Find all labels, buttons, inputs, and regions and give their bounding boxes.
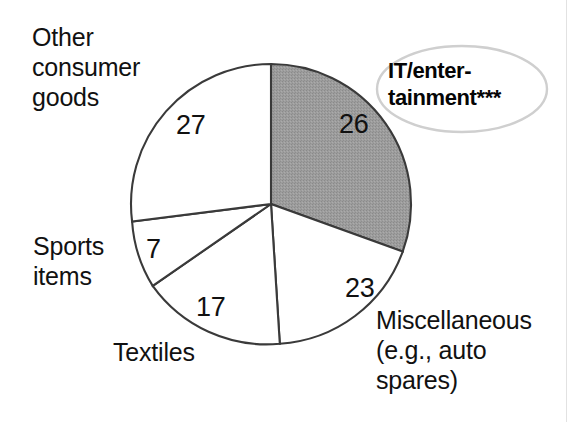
slice-value-it-entertainment: 26 <box>339 111 368 138</box>
slice-label-miscellaneous: Miscellaneous (e.g., auto spares) <box>376 305 566 395</box>
slice-value-miscellaneous: 23 <box>345 275 374 302</box>
page-edge-rule <box>566 0 567 422</box>
slice-label-other-consumer-goods: Other consumer goods <box>32 22 192 112</box>
slice-label-sports-items: Sports items <box>33 231 153 291</box>
slice-label-it-entertainment: IT/enter- tainment*** <box>388 57 544 111</box>
slice-value-other-consumer-goods: 27 <box>176 112 205 139</box>
slice-value-sports-items: 7 <box>146 236 161 263</box>
slice-label-textiles: Textiles <box>113 337 263 367</box>
pie-chart-figure: Other consumer goods Sports items Textil… <box>0 0 577 422</box>
slice-value-textiles: 17 <box>196 294 225 321</box>
